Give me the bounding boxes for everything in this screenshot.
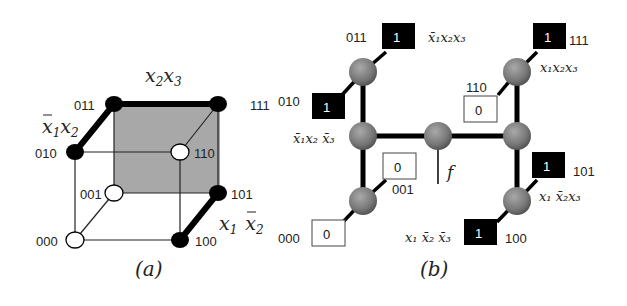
- svg-text:1: 1: [544, 30, 551, 45]
- output-f: f: [445, 162, 456, 182]
- svg-text:0: 0: [475, 103, 482, 118]
- label-000: 000: [36, 234, 58, 249]
- svg-text:011: 011: [346, 30, 367, 45]
- svg-text:0: 0: [323, 227, 330, 242]
- caption-b: (b): [420, 257, 448, 281]
- leaf-011: 1 011: [346, 23, 415, 49]
- label-011: 011: [74, 98, 95, 113]
- vertex-010: [66, 144, 84, 160]
- vertex-101: [209, 185, 227, 201]
- label-101: 101: [231, 187, 253, 202]
- svg-text:101: 101: [573, 164, 595, 179]
- caption-a: (a): [135, 257, 163, 281]
- figure: 011 111 010 110 001 101 000 100 x2x3 x1x…: [0, 0, 627, 306]
- minterm-100: x₁ x̄₂ x̄₃: [405, 230, 451, 245]
- svg-text:100: 100: [505, 231, 527, 246]
- node-x1-0-x2-0: [349, 187, 377, 215]
- svg-text:x1x2: x1x2: [42, 115, 79, 140]
- svg-text:1: 1: [323, 100, 330, 115]
- svg-text:110: 110: [466, 80, 487, 95]
- leaf-110: 0 110: [464, 80, 497, 122]
- leaf-111: 1 111: [533, 23, 589, 49]
- svg-text:010: 010: [278, 94, 300, 109]
- vertex-000: [66, 232, 84, 248]
- label-010: 010: [35, 146, 57, 161]
- svg-text:000: 000: [278, 231, 300, 246]
- minterm-101: x₁ x̄₂x₃: [539, 189, 581, 204]
- node-root: [424, 122, 452, 150]
- svg-text:1: 1: [543, 159, 550, 174]
- term-x1-not-x2: x1x2: [219, 212, 264, 237]
- label-100: 100: [195, 234, 217, 249]
- term-x2x3: x2x3: [145, 64, 182, 89]
- label-110: 110: [194, 146, 215, 161]
- term-not-x1-x2: x1x2: [42, 115, 79, 140]
- leaf-101: 1 101: [532, 152, 595, 179]
- vertex-100: [171, 232, 189, 248]
- panel-b-tree: f 1 011 1 010 0 001 0 000: [278, 23, 595, 281]
- node-x1-1-x2-1: [503, 58, 531, 86]
- node-x1-0-x2-1: [349, 58, 377, 86]
- svg-text:111: 111: [569, 33, 589, 48]
- minterm-111: x₁x₂x₃: [540, 60, 578, 75]
- vertex-111: [209, 96, 227, 112]
- svg-text:001: 001: [392, 182, 414, 197]
- minterm-010: x̄₁x₂ x̄₃: [293, 131, 335, 146]
- svg-text:x1x2: x1x2: [219, 212, 264, 237]
- node-x1-1-x2-0: [503, 187, 531, 215]
- vertex-110: [171, 144, 189, 160]
- svg-text:0: 0: [394, 160, 401, 175]
- vertex-001: [105, 185, 123, 201]
- label-111: 111: [250, 98, 270, 113]
- minterm-011: x̄₁x₂x₃: [428, 30, 466, 45]
- leaf-100: 1 100: [464, 219, 527, 246]
- label-001: 001: [80, 187, 102, 202]
- leaf-001: 0 001: [383, 153, 416, 197]
- leaf-010: 1 010: [278, 93, 345, 119]
- vertex-011: [105, 96, 123, 112]
- svg-text:1: 1: [475, 226, 482, 241]
- node-x1-1: [503, 122, 531, 150]
- panel-a-cube: 011 111 010 110 001 101 000 100 x2x3 x1x…: [35, 64, 270, 281]
- leaf-000: 0 000: [278, 220, 345, 246]
- svg-text:1: 1: [393, 30, 400, 45]
- node-x1-0: [349, 122, 377, 150]
